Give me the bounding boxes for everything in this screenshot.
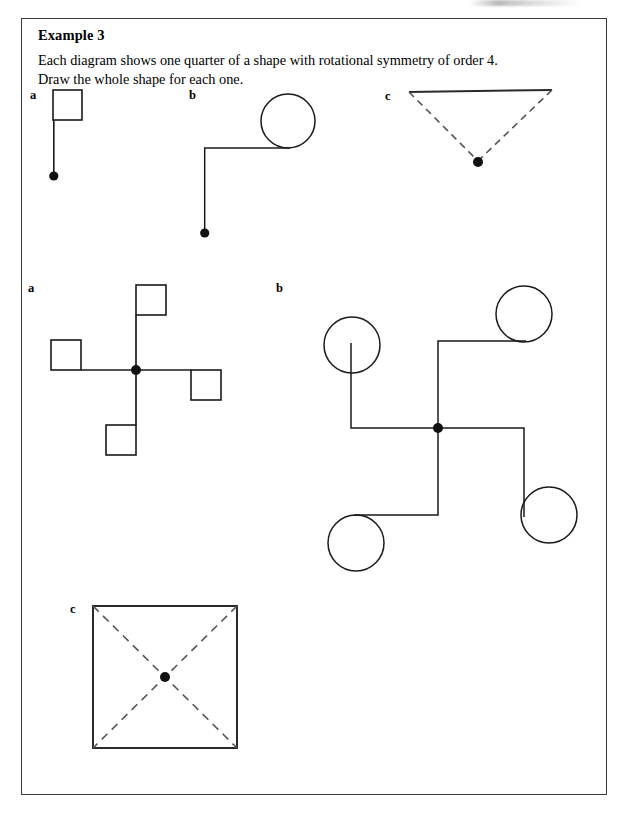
figure-label-question-b: b xyxy=(189,88,196,103)
instructions: Each diagram shows one quarter of a shap… xyxy=(38,51,578,89)
figure-label-answer-b: b xyxy=(276,281,283,296)
page-canvas: Example 3 Each diagram shows one quarter… xyxy=(0,0,624,814)
figure-label-question-a: a xyxy=(30,88,36,103)
page-title: Example 3 xyxy=(38,27,105,44)
instruction-line-1: Each diagram shows one quarter of a shap… xyxy=(38,51,578,70)
figure-label-question-c: c xyxy=(385,89,391,104)
example-box: Example 3 Each diagram shows one quarter… xyxy=(21,18,607,795)
instruction-line-2: Draw the whole shape for each one. xyxy=(38,70,578,89)
figure-label-answer-c: c xyxy=(70,602,76,617)
scan-artifact xyxy=(470,0,580,6)
figure-label-answer-a: a xyxy=(28,281,34,296)
